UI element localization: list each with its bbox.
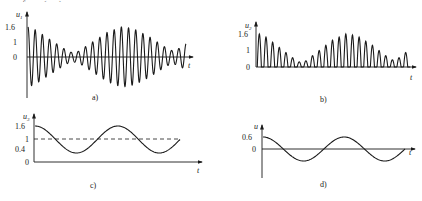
y-axis-label: u1 xyxy=(16,10,23,20)
y-tick-1.6: 1.6 xyxy=(238,30,248,39)
y-tick-0: 0 xyxy=(13,53,17,62)
y-tick-1.6: 1.6 xyxy=(15,122,25,131)
panel-d: u 0.6 0 t d) xyxy=(242,122,415,189)
y-tick-1: 1 xyxy=(246,46,250,55)
x-axis-label: t xyxy=(197,166,200,175)
u2-waveform xyxy=(257,34,410,67)
panel-caption: d) xyxy=(320,180,327,189)
y-tick-1: 1 xyxy=(13,38,17,47)
panel-caption: b) xyxy=(320,95,327,104)
panel-b: u2 1.6 1 0 t b) xyxy=(238,21,416,104)
y-tick-1: 1 xyxy=(25,135,29,144)
y-tick-0: 0 xyxy=(246,63,250,72)
y-tick-0: 0 xyxy=(252,145,256,154)
y-axis-label: u3 xyxy=(23,112,30,122)
y-tick-0.6: 0.6 xyxy=(242,133,252,142)
figure: u1 1.6 1 0 t a) u2 1.6 1 0 t b) u3 1.6 1… xyxy=(0,0,422,201)
y-axis-label: u xyxy=(254,122,258,131)
y-tick-0: 0 xyxy=(25,158,29,167)
panel-caption: a) xyxy=(92,93,99,102)
y-tick-0.4: 0.4 xyxy=(15,145,25,154)
x-axis-label: t xyxy=(410,73,413,82)
panel-a: u1 1.6 1 0 t a) xyxy=(5,10,193,102)
x-axis-label: t xyxy=(188,61,191,70)
u3-waveform xyxy=(35,126,180,153)
panel-c: u3 1.6 1 0.4 0 t c) xyxy=(15,112,202,190)
panel-caption: c) xyxy=(90,181,97,190)
y-tick-1.6: 1.6 xyxy=(5,23,15,32)
